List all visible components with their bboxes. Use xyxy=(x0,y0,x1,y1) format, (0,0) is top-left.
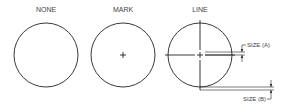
panel-label-none: NONE xyxy=(36,6,57,13)
dimension-size-b: SIZE (B) xyxy=(200,80,274,102)
panel-line: LINE SIZE (A) xyxy=(165,6,274,102)
size-b-label: SIZE (B) xyxy=(243,96,266,102)
center-mark-diagram: NONE MARK LINE xyxy=(0,0,285,109)
size-a-label: SIZE (A) xyxy=(247,42,270,48)
panel-mark: MARK xyxy=(91,6,155,87)
panel-label-line: LINE xyxy=(192,6,208,13)
circle-none xyxy=(14,23,78,87)
panel-label-mark: MARK xyxy=(113,6,134,13)
center-mark-plus-icon xyxy=(120,52,126,58)
panel-none: NONE xyxy=(14,6,78,87)
dimension-size-a: SIZE (A) xyxy=(205,42,270,62)
